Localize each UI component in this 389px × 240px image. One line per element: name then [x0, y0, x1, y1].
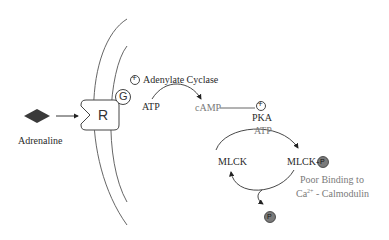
g-protein-label: G — [119, 91, 128, 102]
atp-label-2: ATP — [254, 126, 272, 136]
adrenaline-label: Adrenaline — [18, 136, 62, 146]
phosphate-label-released: P — [267, 213, 272, 220]
arrow-phosphate-release — [258, 190, 263, 204]
adenylate-cyclase-label: Adenylate Cyclase — [143, 75, 218, 85]
camp-label: cAMP — [195, 103, 221, 113]
phosphate-label-mlck: P — [320, 158, 325, 165]
calmodulin-text: - Calmodulin — [314, 188, 370, 199]
poor-binding-line2: Ca2+ - Calmodulin — [296, 188, 369, 199]
pka-label: PKA — [252, 113, 272, 123]
arrow-atp-to-camp — [152, 84, 201, 99]
atp-label-1: ATP — [142, 102, 160, 112]
mlck-p-label: MLCK- — [287, 157, 319, 167]
pathway-canvas — [0, 0, 389, 240]
receptor-label: R — [98, 108, 108, 122]
calcium-symbol: Ca — [296, 188, 307, 199]
poor-binding-line1: Poor Binding to — [300, 175, 364, 185]
mlck-label: MLCK — [218, 157, 247, 167]
plus-icon-pka: + — [258, 100, 263, 109]
adrenaline-diamond — [24, 109, 50, 123]
plus-icon-ac: + — [132, 74, 137, 83]
arrow-mlck-p-to-mlck — [231, 170, 294, 190]
